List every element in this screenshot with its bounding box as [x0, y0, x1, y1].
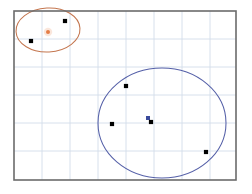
centroid-marker: [146, 116, 150, 120]
data-point: [29, 39, 33, 43]
plot-canvas: [0, 0, 252, 194]
data-point: [149, 120, 153, 124]
data-point: [204, 150, 208, 154]
centroid-marker: [46, 30, 50, 34]
data-point: [110, 122, 114, 126]
data-point: [124, 84, 128, 88]
centroid-cluster-b: [146, 116, 150, 120]
plot-background: [14, 11, 236, 180]
data-point: [63, 19, 67, 23]
centroid-cluster-a: [44, 28, 52, 36]
cluster-scatter-plot: [0, 0, 252, 194]
